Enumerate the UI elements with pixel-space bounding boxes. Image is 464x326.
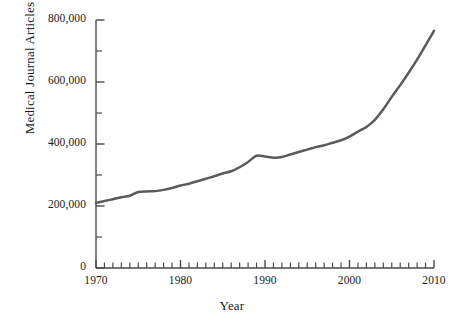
x-tick-label: 2010	[404, 274, 464, 286]
data-series-line	[96, 31, 434, 203]
x-tick-label: 1980	[151, 274, 211, 286]
x-tick-label: 2000	[320, 274, 380, 286]
x-axis-label: Year	[0, 298, 464, 314]
chart-figure: Medical Journal Articles Year 0200,00040…	[0, 0, 464, 326]
x-axis-ticks	[96, 260, 434, 268]
y-tick-label: 0	[24, 260, 86, 272]
y-tick-label: 600,000	[24, 74, 86, 86]
x-tick-label: 1990	[235, 274, 295, 286]
y-tick-label: 400,000	[24, 136, 86, 148]
cropped-caption	[22, 316, 440, 325]
y-tick-label: 200,000	[24, 198, 86, 210]
y-tick-label: 800,000	[24, 12, 86, 24]
x-tick-label: 1970	[66, 274, 126, 286]
y-axis-ticks	[96, 20, 105, 268]
